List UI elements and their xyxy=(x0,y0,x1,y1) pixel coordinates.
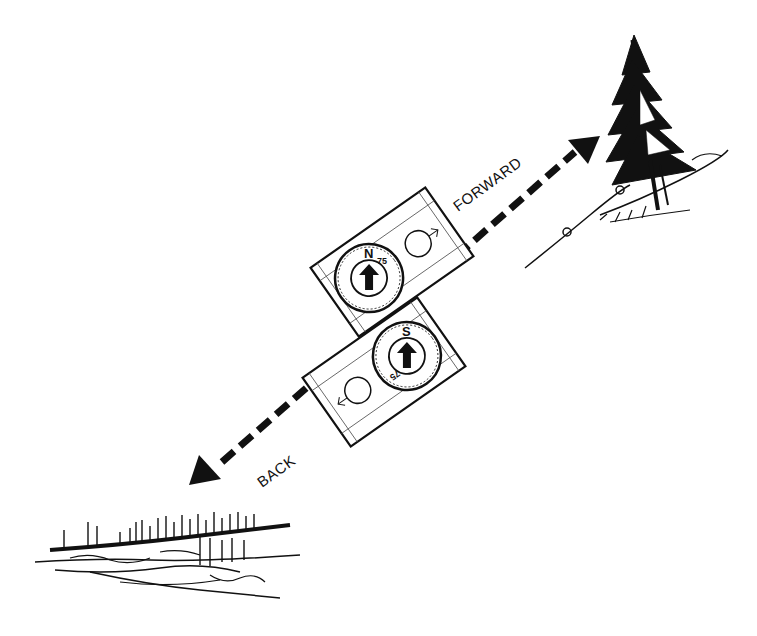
tree-icon xyxy=(525,35,728,268)
compass-back: S 75 xyxy=(303,297,466,446)
cardinal-label-n: N xyxy=(364,246,373,261)
diagram-canvas: N 75 S 75 FORWARD BACK xyxy=(0,0,757,636)
back-arrowhead-icon xyxy=(189,455,221,485)
back-label: BACK xyxy=(254,451,299,490)
cardinal-label-s: S xyxy=(402,324,411,339)
marsh-grass-icon xyxy=(35,512,300,598)
degree-label: 75 xyxy=(377,256,387,266)
